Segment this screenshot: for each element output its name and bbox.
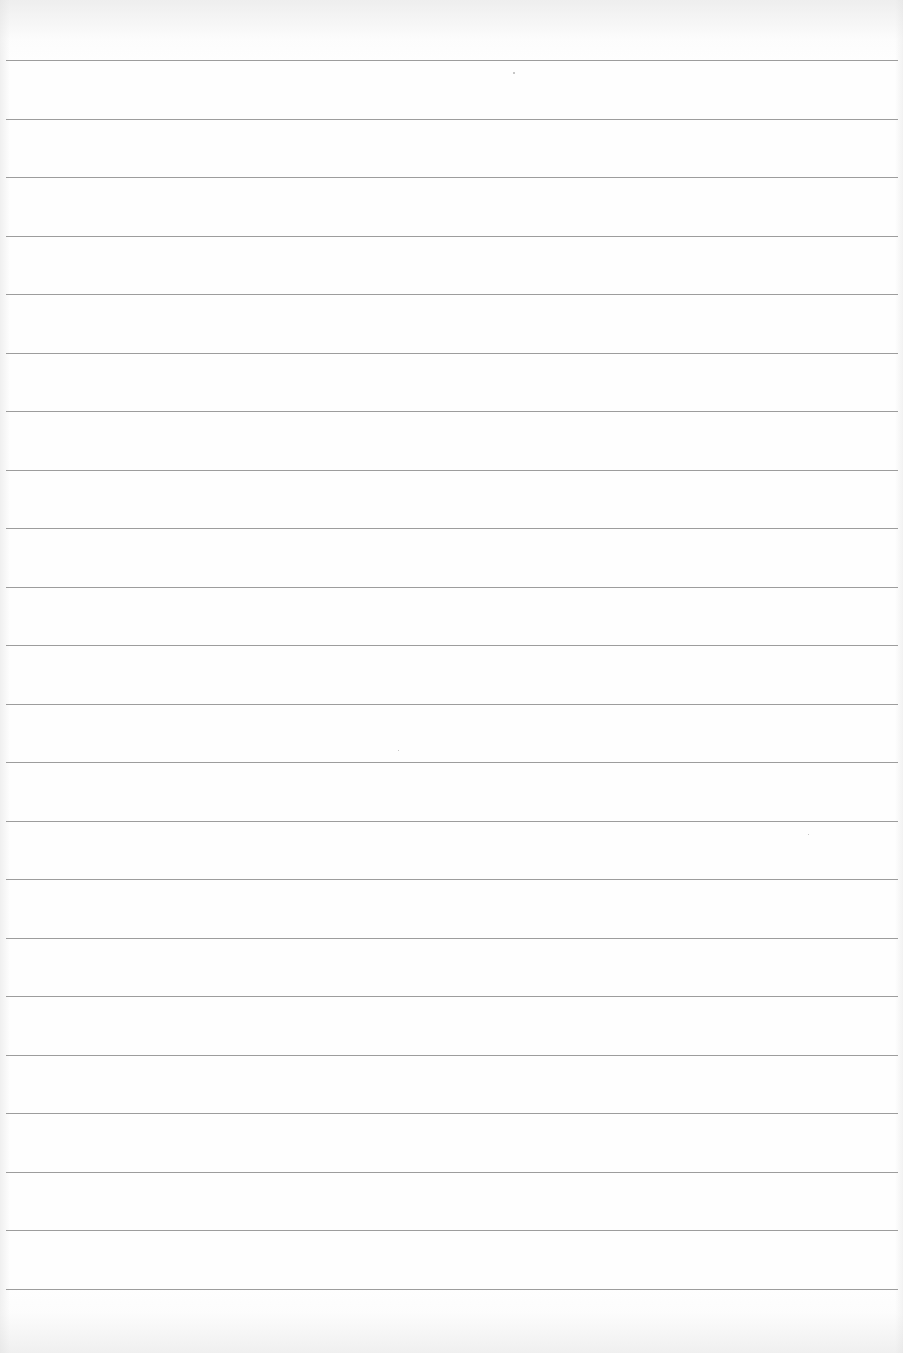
ruled-line: [6, 1055, 898, 1056]
ruled-line: [6, 1230, 898, 1231]
ruled-line: [6, 470, 898, 471]
ruled-line: [6, 938, 898, 939]
paper-speck: [808, 834, 809, 835]
ruled-line: [6, 1289, 898, 1290]
ruled-line: [6, 821, 898, 822]
ruled-line: [6, 762, 898, 763]
ruled-line: [6, 294, 898, 295]
ruled-line: [6, 119, 898, 120]
ruled-line: [6, 879, 898, 880]
ruled-line: [6, 645, 898, 646]
ruled-line: [6, 411, 898, 412]
ruled-line: [6, 1113, 898, 1114]
ruled-line: [6, 528, 898, 529]
ruled-line: [6, 1172, 898, 1173]
ruled-line: [6, 353, 898, 354]
paper-speck: [513, 72, 515, 74]
ruled-line: [6, 60, 898, 61]
lined-paper-sheet: [0, 0, 903, 1353]
ruled-line: [6, 996, 898, 997]
ruled-line: [6, 236, 898, 237]
ruled-line: [6, 704, 898, 705]
ruled-line: [6, 587, 898, 588]
paper-speck: [398, 750, 399, 751]
ruled-line: [6, 177, 898, 178]
